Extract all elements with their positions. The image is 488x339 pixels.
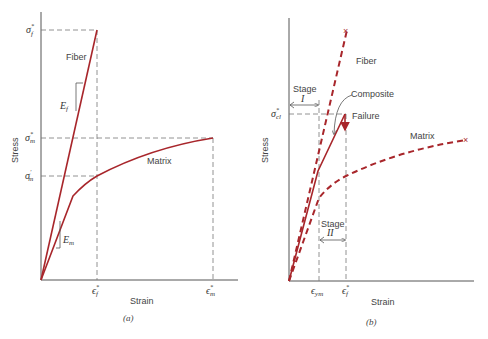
tick-sigma-m-star: σ*m <box>25 131 35 145</box>
stage-1-label: Stage <box>293 84 317 94</box>
stress-strain-diagram: Fiber Matrix Ef Em σ*f σ*m σ′m ϵ*f ϵ*m S… <box>0 0 488 339</box>
fiber-failure-x-icon: × <box>343 26 348 36</box>
fiber-curve-b <box>289 30 347 281</box>
panel-a: Fiber Matrix Ef Em σ*f σ*m σ′m ϵ*f ϵ*m S… <box>10 12 238 323</box>
stage-2-num: II <box>326 227 334 238</box>
matrix-failure-x-icon: × <box>463 135 468 145</box>
failure-label: Failure <box>352 111 380 121</box>
tick-sigma-m-prime: σ′m <box>25 169 33 183</box>
ef-label: Ef <box>59 100 69 113</box>
fiber-label-a: Fiber <box>66 52 87 62</box>
matrix-curve-b <box>289 140 466 281</box>
panel-b: × × Fiber Composite Failure Matrix Stage… <box>260 18 474 327</box>
matrix-label-a: Matrix <box>147 156 172 166</box>
xlabel-b: Strain <box>371 297 395 307</box>
ylabel-a: Stress <box>10 137 20 163</box>
composite-curve <box>289 114 345 281</box>
tick-eps-m-star: ϵ*m <box>206 284 215 298</box>
ylabel-b: Stress <box>260 137 270 163</box>
tick-sigma-f-star: σ*f <box>26 23 34 38</box>
caption-b: (b) <box>366 317 377 327</box>
tick-eps-f-star-b: ϵ*f <box>342 284 349 298</box>
matrix-curve-a <box>41 138 213 280</box>
tick-sigma-cl-star: σ*cl <box>271 107 281 121</box>
tick-eps-f-star: ϵ*f <box>92 284 99 298</box>
caption-a: (a) <box>123 313 134 323</box>
composite-pointer <box>334 95 352 134</box>
tick-eps-ym: ϵym <box>311 285 323 298</box>
em-label: Em <box>62 234 74 247</box>
composite-label: Composite <box>351 89 394 99</box>
stage-1-num: I <box>300 93 305 104</box>
fiber-label-b: Fiber <box>356 56 377 66</box>
matrix-label-b: Matrix <box>410 131 435 141</box>
xlabel-a: Strain <box>130 296 154 306</box>
